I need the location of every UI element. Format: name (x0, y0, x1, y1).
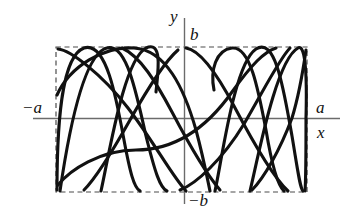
x-min-label: −a (22, 99, 42, 116)
x-axis-label: x (317, 124, 325, 141)
y-min-label: −b (188, 192, 208, 209)
y-axis-label: y (170, 8, 178, 25)
y-max-label: b (190, 26, 199, 43)
lissajous-figure: y b −b −a a x (0, 0, 351, 214)
lissajous-plot-canvas (0, 0, 351, 214)
bounding-box-dashed (56, 47, 307, 192)
x-max-label: a (316, 99, 325, 116)
lissajous-lobe-5 (57, 48, 210, 191)
